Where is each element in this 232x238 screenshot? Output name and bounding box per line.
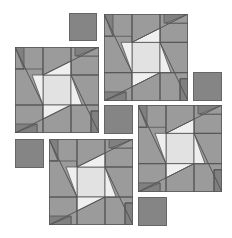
pinwheel-block-bottom-left — [49, 139, 133, 225]
small-square-left — [15, 139, 44, 168]
small-square-bottom — [138, 197, 167, 226]
quilt-canvas — [0, 0, 232, 238]
small-square-center — [104, 105, 133, 134]
small-square-top — [69, 13, 97, 41]
small-square-right — [193, 72, 222, 101]
pinwheel-block-bottom-right — [138, 105, 222, 192]
pinwheel-block-top-left — [15, 47, 99, 133]
pinwheel-block-top-right — [104, 14, 188, 101]
